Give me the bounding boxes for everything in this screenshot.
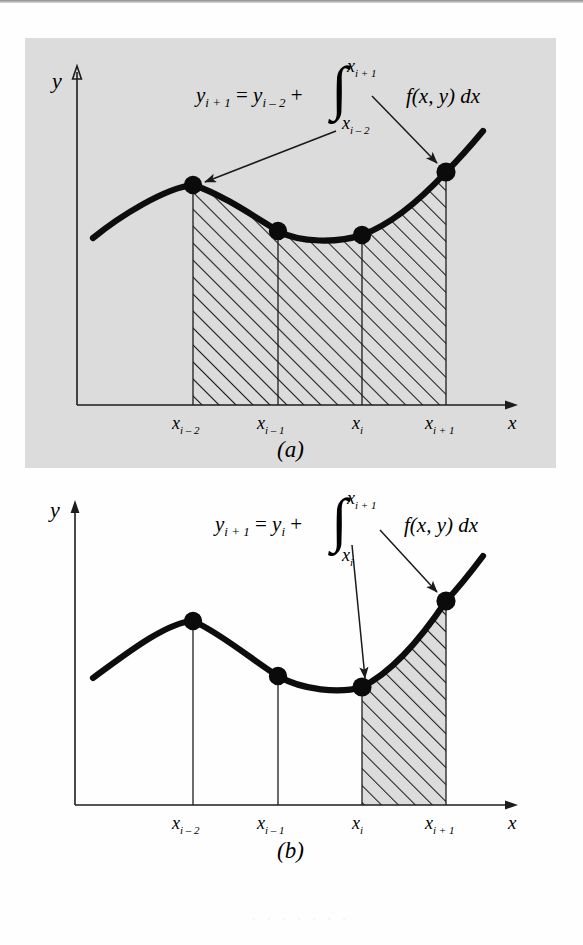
panel-a-integral-sign: ∫ [331, 58, 347, 118]
panel-b-equation: yi + 1 = yi + [215, 512, 302, 540]
panel-a-eq-lhs-base: y [196, 83, 205, 107]
panel-b-plot [71, 500, 518, 809]
panel-a-arrow-limits-to-left-node [205, 131, 336, 182]
panel-b-y-axis-arrow [71, 500, 80, 513]
panel-b-lower-sub: i [350, 556, 353, 568]
panel-a-xtick-0: xi – 2 [172, 413, 200, 436]
panel-b-shaded-region [362, 601, 446, 805]
panel-a-xtick-1-sub: i – 1 [265, 424, 285, 436]
panel-a-y-axis-label: y [52, 68, 62, 94]
panel-b-x-axis-arrow [505, 801, 518, 810]
page-bleedthrough-text: · · · · · · · [170, 908, 430, 932]
panel-a-integral-lower-limit: xi – 2 [342, 113, 370, 136]
panel-b-eq-lhs-base: y [215, 512, 224, 536]
panel-b-xtick-0: xi – 2 [172, 813, 200, 836]
panel-a-integrand: f(x, y) dx [406, 84, 480, 109]
panel-a-eq-rhs-sub: i – 2 [262, 95, 285, 110]
panel-a-xtick-2: xi [352, 413, 363, 436]
panel-a-xtick-3: xi + 1 [425, 413, 454, 436]
panel-b-xtick-1-sub: i – 1 [265, 824, 285, 836]
panel-b-eq-rhs-base: y [272, 512, 281, 536]
panel-b-upper-base: x [347, 488, 355, 508]
panel-a-xtick-3-base: x [425, 413, 433, 433]
panel-a-plot [73, 66, 518, 409]
panel-b-eq-equals: = [255, 512, 267, 536]
panel-a-xtick-1-base: x [257, 413, 265, 433]
panel-a-upper-base: x [347, 56, 355, 76]
panel-a-caption: (a) [277, 437, 304, 463]
panel-a-xtick-0-base: x [172, 413, 180, 433]
panel-b-xtick-0-sub: i – 2 [180, 824, 200, 836]
panel-b-node-xi-plus-1 [436, 591, 455, 610]
panel-b-xtick-3: xi + 1 [425, 813, 454, 836]
panel-a-eq-equals: = [236, 83, 248, 107]
panel-a-node-xi-plus-1 [436, 162, 455, 181]
panel-a-x-axis-arrow [505, 401, 518, 410]
panel-b-xtick-1-base: x [257, 813, 265, 833]
panel-b-integral-sign: ∫ [331, 490, 347, 550]
panel-b-integrand: f(x, y) dx [404, 513, 478, 538]
panel-b-xtick-3-base: x [425, 813, 433, 833]
panel-a-xtick-3-sub: i + 1 [433, 424, 454, 436]
panel-a-equation: yi + 1 = yi – 2 + [196, 83, 303, 111]
panel-b-xtick-0-base: x [172, 813, 180, 833]
panel-b-integral-upper-limit: xi + 1 [347, 488, 376, 511]
figure-vector-layer [0, 0, 583, 945]
panel-a-node-xi-minus-1 [269, 222, 287, 240]
panel-b-x-axis-label: x [508, 812, 516, 834]
panel-a-upper-sub: i + 1 [355, 67, 376, 79]
panel-b-upper-sub: i + 1 [355, 499, 376, 511]
panel-b-xtick-3-sub: i + 1 [433, 824, 454, 836]
panel-b-xtick-1: xi – 1 [257, 813, 285, 836]
panel-a-node-xi-minus-2 [184, 176, 202, 194]
panel-a-x-axis-label: x [508, 412, 516, 434]
panel-b-arrow-integrand-to-right-node [380, 530, 437, 592]
panel-b-xtick-2-sub: i [360, 824, 363, 836]
panel-b-xtick-2: xi [352, 813, 363, 836]
panel-a-integral-upper-limit: xi + 1 [347, 56, 376, 79]
panel-a-xtick-2-sub: i [360, 424, 363, 436]
panel-b-eq-lhs-sub: i + 1 [224, 524, 249, 539]
panel-b-node-xi [352, 677, 371, 696]
panel-a-eq-rhs-base: y [253, 83, 262, 107]
panel-b-lower-base: x [342, 545, 350, 565]
panel-b-node-xi-minus-2 [184, 612, 202, 630]
panel-a-node-xi [353, 226, 371, 244]
figure-page: y yi + 1 = yi – 2 + ∫ xi + 1 xi – 2 f(x,… [0, 0, 583, 945]
panel-a-lower-base: x [342, 113, 350, 133]
panel-b-arrow-lower-limit-to-xi-node [352, 545, 365, 678]
panel-b-eq-rhs-sub: i [281, 524, 285, 539]
panel-a-xtick-2-base: x [352, 413, 360, 433]
panel-b-integral-lower-limit: xi [342, 545, 353, 568]
panel-b-xtick-2-base: x [352, 813, 360, 833]
panel-a-xtick-1: xi – 1 [257, 413, 285, 436]
panel-a-eq-plus: + [291, 83, 303, 107]
panel-b-node-xi-minus-1 [269, 667, 287, 685]
panel-a-xtick-0-sub: i – 2 [180, 424, 200, 436]
panel-b-caption: (b) [277, 838, 304, 864]
panel-a-eq-lhs-sub: i + 1 [205, 95, 230, 110]
panel-b-eq-plus: + [290, 512, 302, 536]
panel-a-lower-sub: i – 2 [350, 124, 370, 136]
panel-b-y-axis-label: y [50, 497, 60, 523]
